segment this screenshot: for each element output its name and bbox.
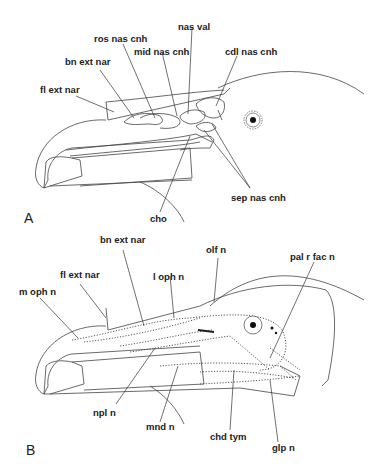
label-a-sep-nas-cnh: sep nas cnh (231, 193, 286, 203)
label-b-fl-ext-nar: fl ext nar (60, 270, 100, 280)
label-a-bn-ext-nar: bn ext nar (65, 57, 110, 67)
panel-letter-a: A (24, 211, 33, 225)
label-a-cdl-nas-cnh: cdl nas cnh (225, 47, 277, 57)
label-b-glp-n: glp n (272, 443, 295, 453)
label-b-pal-r-fac-n: pal r fac n (290, 252, 335, 262)
label-b-chd-tym: chd tym (210, 432, 246, 442)
label-a-fl-ext-nar: fl ext nar (40, 85, 80, 95)
label-b-m-oph-n: m oph n (19, 287, 56, 297)
label-b-l-oph-n: l oph n (153, 272, 184, 282)
label-b-bn-ext-nar: bn ext nar (100, 235, 145, 245)
label-b-npl-n: npl n (93, 408, 116, 418)
label-a-mid-nas-cnh: mid nas cnh (134, 47, 189, 57)
label-a-cho: cho (150, 214, 167, 224)
label-a-ros-nas-cnh: ros nas cnh (94, 34, 147, 44)
label-a-nas-val: nas val (178, 22, 210, 32)
label-b-olf-n: olf n (206, 245, 226, 255)
anatomical-drawing (0, 0, 380, 470)
panel-letter-b: B (26, 443, 35, 457)
label-b-mnd-n: mnd n (146, 422, 175, 432)
